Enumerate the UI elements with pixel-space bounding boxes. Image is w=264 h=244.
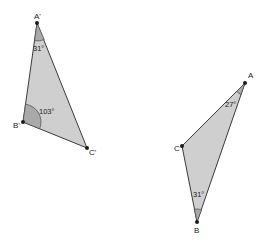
vertex-a — [243, 81, 247, 85]
label-c: C — [174, 144, 180, 153]
angle-label-a: 27° — [225, 100, 236, 109]
triangle-a-prime-b-prime-c-prime: A' B' C' 31° 103° — [13, 12, 97, 157]
label-a-prime: A' — [34, 12, 41, 21]
label-b: B — [194, 226, 199, 235]
label-a: A — [248, 71, 254, 80]
vertex-b-prime — [21, 120, 25, 124]
angle-label-b: 31° — [193, 190, 204, 199]
triangle-prime-body — [23, 23, 87, 148]
label-c-prime: C' — [89, 148, 97, 157]
angle-label-a-prime: 31° — [33, 44, 44, 53]
vertex-a-prime — [35, 21, 39, 25]
angle-label-b-prime: 103° — [39, 107, 55, 116]
vertex-b — [195, 220, 199, 224]
triangles-diagram: A' B' C' 31° 103° A B C 27° 31° — [0, 0, 264, 244]
angle-arc-a-prime — [35, 23, 45, 41]
label-b-prime: B' — [13, 121, 20, 130]
vertex-c — [180, 144, 184, 148]
angle-arc-a — [237, 83, 246, 94]
angle-arc-b — [195, 209, 202, 222]
triangle-abc: A B C 27° 31° — [174, 71, 254, 235]
